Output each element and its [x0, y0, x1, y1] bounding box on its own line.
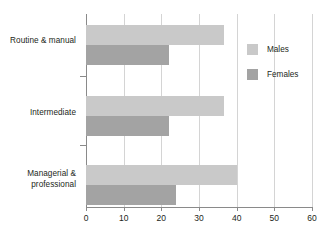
x-tick-label-60: 60: [307, 213, 316, 223]
x-tick-label-30: 30: [194, 213, 203, 223]
legend-swatch-males-icon: [247, 44, 258, 55]
bar-routine-manual-males: [86, 25, 224, 45]
x-tick-mark-20: [161, 207, 162, 211]
category-axis-labels: Routine & manual Intermediate Managerial…: [0, 0, 80, 233]
category-label-managerial-professional: Managerial & professional: [27, 169, 76, 190]
category-label-routine-manual: Routine & manual: [10, 36, 76, 47]
gridline-40: [237, 14, 238, 208]
legend-item-females: Females: [247, 69, 321, 80]
chart-legend: Males Females: [247, 44, 321, 94]
x-tick-mark-30: [199, 207, 200, 211]
bar-routine-manual-females: [86, 45, 169, 65]
x-tick-mark-50: [274, 207, 275, 211]
x-tick-label-40: 40: [232, 213, 241, 223]
x-tick-mark-0: [86, 207, 87, 211]
x-tick-label-50: 50: [270, 213, 279, 223]
x-tick-mark-40: [237, 207, 238, 211]
legend-swatch-females-icon: [247, 69, 258, 80]
x-tick-label-20: 20: [157, 213, 166, 223]
bar-intermediate-females: [86, 116, 169, 136]
x-tick-label-0: 0: [84, 213, 89, 223]
legend-item-males: Males: [247, 44, 321, 55]
bar-intermediate-males: [86, 96, 224, 116]
legend-label-males: Males: [267, 45, 289, 54]
bar-managerial-professional-females: [86, 185, 176, 205]
category-label-intermediate: Intermediate: [30, 108, 76, 119]
x-tick-mark-60: [312, 207, 313, 211]
x-tick-label-10: 10: [119, 213, 128, 223]
x-tick-mark-10: [124, 207, 125, 211]
legend-label-females: Females: [267, 70, 298, 79]
bar-managerial-professional-males: [86, 165, 237, 185]
bar-chart: Routine & manual Intermediate Managerial…: [0, 0, 321, 233]
